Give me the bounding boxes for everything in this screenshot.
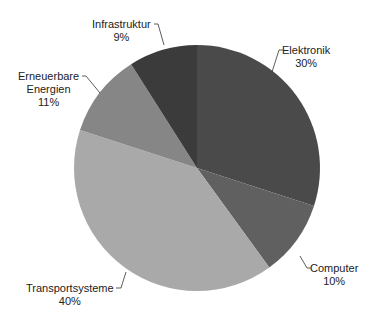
label-erneuerbare: Erneuerbare Energien 11% <box>18 70 79 109</box>
label-name: Computer <box>310 262 358 275</box>
label-pct: 40% <box>26 295 114 308</box>
label-computer: Computer 10% <box>310 262 358 288</box>
label-name-line1: Erneuerbare <box>18 70 79 83</box>
label-pct: 9% <box>92 31 151 44</box>
label-pct: 30% <box>282 57 330 70</box>
label-transport: Transportsysteme 40% <box>26 282 114 308</box>
label-name-line2: Energien <box>18 83 79 96</box>
leader-infrastruktur <box>154 24 164 45</box>
label-name: Elektronik <box>282 44 330 57</box>
leader-erneuerbare <box>82 76 100 93</box>
label-elektronik: Elektronik 30% <box>282 44 330 70</box>
label-pct: 10% <box>310 275 358 288</box>
leader-transport <box>116 272 126 288</box>
label-infrastruktur: Infrastruktur 9% <box>92 18 151 44</box>
label-pct: 11% <box>18 96 79 109</box>
label-name: Transportsysteme <box>26 282 114 295</box>
label-name: Infrastruktur <box>92 18 151 31</box>
